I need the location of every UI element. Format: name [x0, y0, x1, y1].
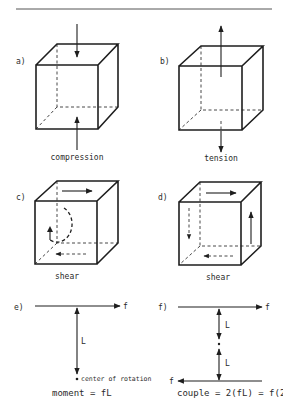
panel-b-tension: b) tension: [160, 26, 263, 163]
panel-a-label: a): [16, 57, 26, 66]
panel-c-label: c): [16, 193, 26, 202]
length-label: L: [81, 337, 86, 346]
panel-c-caption: shear: [55, 272, 79, 281]
panel-a-caption: compression: [51, 153, 104, 162]
panel-d-shear: d) shear: [158, 182, 261, 282]
force-label-bottom: f: [169, 377, 174, 386]
panel-e-label: e): [14, 303, 24, 312]
panel-c-shear: c) shear: [16, 181, 118, 281]
panel-d-caption: shear: [206, 273, 230, 282]
moment-equation: moment = fL: [52, 388, 112, 398]
panel-e-moment: e) f L center of rotation moment = fL: [14, 302, 152, 398]
cube-d: [179, 182, 261, 265]
force-diagram-figure: a) compression b) tension c) shear: [0, 0, 283, 412]
length-label-1: L: [225, 321, 230, 330]
panel-d-label: d): [158, 193, 168, 202]
center-of-rotation-point: [76, 378, 79, 381]
panel-f-couple: f) f L L f couple = 2(fL) = f(2L): [158, 303, 283, 398]
cube-c: [35, 181, 118, 264]
force-label-top: f: [265, 303, 270, 312]
center-point: [218, 343, 220, 345]
rotation-arrow: [50, 208, 72, 242]
couple-equation: couple = 2(fL) = f(2L): [177, 388, 283, 398]
panel-f-label: f): [158, 303, 168, 312]
force-label: f: [123, 302, 128, 311]
center-of-rotation-label: center of rotation: [81, 375, 152, 383]
panel-a-compression: a) compression: [16, 24, 118, 162]
panel-b-caption: tension: [204, 154, 238, 163]
panel-b-label: b): [160, 57, 170, 66]
length-label-2: L: [225, 359, 230, 368]
